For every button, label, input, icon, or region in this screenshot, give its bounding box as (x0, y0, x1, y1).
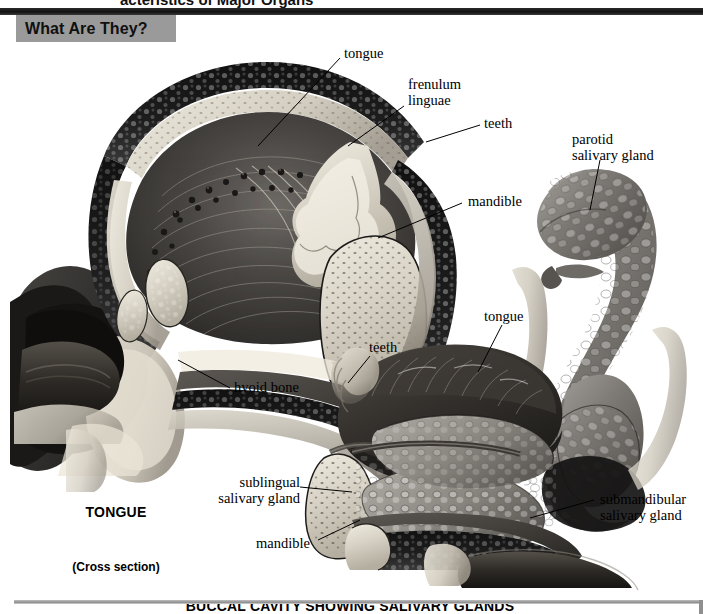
page-top-partial-text: acteristics of Major Organs (120, 0, 313, 8)
label-mandible-right: mandible (205, 535, 310, 551)
label-tongue-left: tongue (344, 45, 383, 61)
label-frenulum-linguae: frenulum linguae (408, 76, 461, 108)
caption-tongue: TONGUE (Cross section) (46, 466, 186, 612)
caption-tongue-subtitle: (Cross section) (46, 560, 186, 574)
caption-tongue-title: TONGUE (46, 504, 186, 521)
section-tab: What Are They? (16, 15, 176, 42)
footer-rule-cap (699, 600, 703, 614)
label-hyoid-bone: hyoid bone (234, 379, 299, 395)
caption-buccal-cavity: BUCCAL CAVITY SHOWING SALIVARY GLANDS (C… (180, 560, 520, 614)
figure-page: acteristics of Major Organs What Are The… (0, 0, 703, 614)
label-teeth-left: teeth (484, 115, 512, 131)
page-top-partial-text-strip: acteristics of Major Organs (0, 0, 703, 8)
label-teeth-right: teeth (369, 339, 397, 355)
label-sublingual-salivary-gland: sublingual salivary gland (195, 474, 300, 506)
label-mandible-left: mandible (468, 193, 522, 209)
header-rule (0, 8, 703, 15)
footer-rule (14, 600, 703, 604)
leader-teeth-left (426, 125, 480, 142)
section-tab-label: What Are They? (16, 20, 148, 38)
label-submandibular-salivary-gland: submandibular salivary gland (600, 491, 686, 523)
label-tongue-right: tongue (484, 308, 523, 324)
label-parotid-salivary-gland: parotid salivary gland (572, 131, 654, 163)
